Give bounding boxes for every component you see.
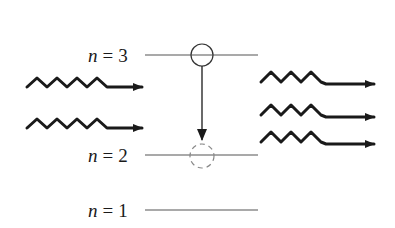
incoming-photon-wave-icon [27, 119, 142, 128]
outgoing-photon-wave-icon [261, 105, 374, 117]
energy-level-3: n=3 [88, 45, 258, 66]
energy-level-diagram: n=3 n=2 n=1 [0, 0, 395, 228]
level-label-3: n=3 [88, 45, 128, 66]
energy-level-1: n=1 [88, 200, 258, 221]
electron-final-icon [190, 144, 214, 168]
outgoing-photon-wave-icon [261, 72, 374, 84]
level-label-2: n=2 [88, 145, 128, 166]
level-label-1: n=1 [88, 200, 128, 221]
incoming-photon-wave-icon [27, 78, 142, 87]
energy-level-2: n=2 [88, 145, 258, 166]
outgoing-photon-wave-icon [261, 132, 374, 144]
